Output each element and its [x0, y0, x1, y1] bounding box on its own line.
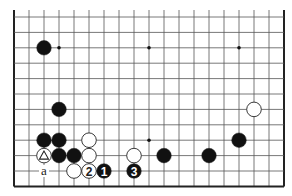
- black-stone: [67, 148, 82, 163]
- white-stone: [82, 148, 97, 163]
- white-stone: [82, 133, 97, 148]
- black-stone: 3: [127, 164, 142, 179]
- black-stone: [202, 148, 217, 163]
- white-stone: [37, 148, 52, 163]
- star-point-icon: [147, 138, 151, 142]
- black-stone: [52, 133, 67, 148]
- white-stone: [127, 148, 142, 163]
- go-board: a 213: [0, 0, 292, 196]
- black-stone: [157, 148, 172, 163]
- star-point-icon: [57, 46, 61, 50]
- point-label-a: a: [41, 163, 47, 178]
- black-stone: [37, 41, 52, 56]
- black-stone: [37, 133, 52, 148]
- board-letters: a: [39, 163, 49, 178]
- move-number-label: 1: [101, 165, 108, 179]
- black-stone: [52, 148, 67, 163]
- white-stone: [247, 102, 262, 117]
- white-stone: 2: [82, 164, 97, 179]
- black-stone: 1: [97, 164, 112, 179]
- star-point-icon: [147, 46, 151, 50]
- white-stone: [67, 164, 82, 179]
- black-stone: [232, 133, 247, 148]
- move-number-label: 3: [131, 165, 138, 179]
- move-number-label: 2: [86, 165, 93, 179]
- star-point-icon: [237, 46, 241, 50]
- black-stone: [52, 102, 67, 117]
